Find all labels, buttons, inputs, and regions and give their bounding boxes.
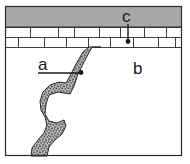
label-c: c (122, 7, 131, 26)
label-c-dot (126, 39, 131, 44)
label-b: b (133, 59, 142, 78)
gray-cap-layer (6, 7, 181, 27)
label-a-dot (79, 70, 84, 75)
label-a: a (38, 55, 48, 74)
figure-frame-background (6, 7, 182, 156)
cross-section-canvas: c a b (0, 0, 190, 164)
geologic-cross-section-figure: c a b (0, 0, 190, 164)
